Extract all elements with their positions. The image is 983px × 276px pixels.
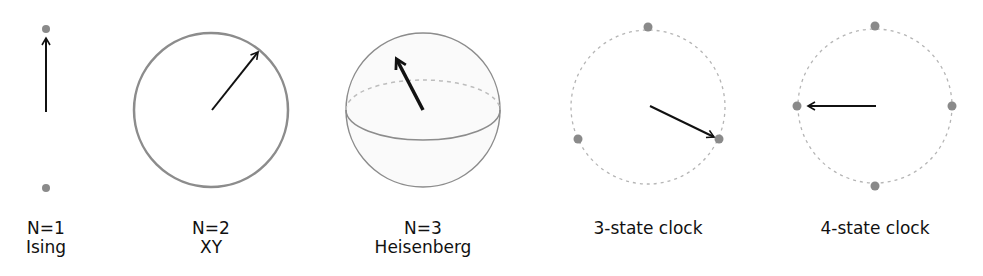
ising-name: Ising [0, 238, 126, 257]
xy-name: XY [131, 238, 291, 257]
clock3-label: 3-state clock [568, 219, 728, 238]
dashed-circle [571, 30, 725, 184]
xy-label: N=2 XY [131, 219, 291, 257]
clock4-name: 4-state clock [795, 219, 955, 238]
state-dot-down [42, 184, 50, 192]
clock4-panel [793, 22, 957, 191]
state-dot-up [42, 25, 50, 33]
xy-panel [134, 33, 288, 187]
clock3-name: 3-state clock [568, 219, 728, 238]
spin-arrow-icon [650, 106, 714, 137]
heisenberg-panel [346, 33, 500, 187]
state-dot [715, 135, 724, 144]
clock4-label: 4-state clock [795, 219, 955, 238]
heisenberg-name: Heisenberg [343, 238, 503, 257]
heisenberg-label: N=3 Heisenberg [343, 219, 503, 257]
ising-n: N=1 [0, 219, 126, 238]
state-dot [948, 102, 957, 111]
ising-label: N=1 Ising [0, 219, 126, 257]
heisenberg-n: N=3 [343, 219, 503, 238]
unit-circle [134, 33, 288, 187]
state-dot [871, 22, 880, 31]
state-dot [644, 23, 653, 32]
clock3-panel [571, 23, 725, 185]
state-dot [871, 182, 880, 191]
ising-panel [42, 25, 50, 192]
xy-n: N=2 [131, 219, 291, 238]
spin-arrow-icon [212, 52, 258, 110]
state-dot [793, 102, 802, 111]
state-dot [574, 135, 583, 144]
